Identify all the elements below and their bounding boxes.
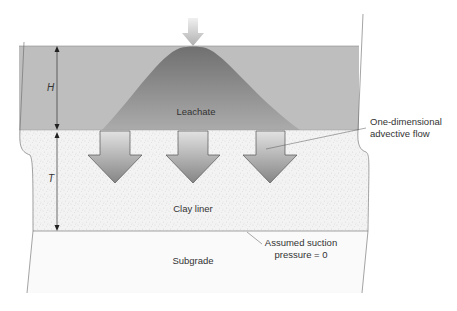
inflow-arrow-icon xyxy=(182,18,204,46)
suction-annotation-line2: pressure = 0 xyxy=(274,249,327,260)
flow-annotation-line2: advective flow xyxy=(370,128,430,139)
suction-annotation-line1: Assumed suction xyxy=(265,237,337,248)
leachate-label: Leachate xyxy=(176,106,215,117)
flow-arrows xyxy=(88,131,297,183)
clay-liner-label: Clay liner xyxy=(173,203,213,214)
dimension-t-label: T xyxy=(48,173,55,184)
flow-annotation-line1: One-dimensional xyxy=(370,116,442,127)
clay-liner-diagram: H T Leachate Clay liner Subgrade One-dim… xyxy=(0,0,457,311)
subgrade-label: Subgrade xyxy=(172,255,213,266)
dimension-h-label: H xyxy=(47,82,55,93)
